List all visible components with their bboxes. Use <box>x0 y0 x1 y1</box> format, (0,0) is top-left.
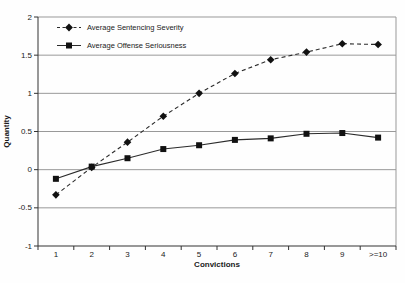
legend-item-sentencing-severity: Average Sentencing Severity <box>57 22 186 33</box>
x-tick-label: 4 <box>161 250 166 259</box>
offense-seriousness-data-point <box>268 135 274 141</box>
sentencing-severity-data-point <box>338 40 346 48</box>
x-axis-title: Convictions <box>194 260 240 269</box>
x-tick-label: >=10 <box>369 250 388 259</box>
offense-seriousness-data-point <box>125 155 131 161</box>
y-tick-label: -1 <box>25 242 33 251</box>
sentencing-severity-line <box>56 44 378 195</box>
y-tick-label: -0.5 <box>18 203 32 212</box>
y-tick-label: 0.5 <box>21 127 33 136</box>
legend-label-offense-seriousness: Average Offense Seriousness <box>87 41 186 50</box>
chart: Quantity Convictions -1-0.500.511.521234… <box>0 0 405 283</box>
sentencing-severity-data-point <box>374 41 382 49</box>
offense-seriousness-data-point <box>53 176 59 182</box>
y-tick-label: 1 <box>28 89 33 98</box>
x-tick-label: 1 <box>54 250 59 259</box>
sentencing-severity-data-point <box>267 56 275 64</box>
x-tick-label: 9 <box>340 250 345 259</box>
sentencing-severity-data-point <box>231 70 239 78</box>
offense-seriousness-data-point <box>196 142 202 148</box>
y-tick-label: 0 <box>28 165 33 174</box>
sentencing-severity-data-point <box>195 90 203 98</box>
sentencing-severity-data-point <box>124 138 132 146</box>
x-tick-label: 2 <box>89 250 94 259</box>
offense-seriousness-data-point <box>232 137 238 143</box>
dashed-diamond-legend-marker-icon <box>57 23 81 32</box>
legend: Average Sentencing Severity Average Offe… <box>57 22 186 51</box>
y-axis-title: Quantity <box>2 115 11 148</box>
x-tick-label: 5 <box>197 250 202 259</box>
offense-seriousness-data-point <box>89 164 95 170</box>
x-tick-label: 3 <box>125 250 130 259</box>
legend-item-offense-seriousness: Average Offense Seriousness <box>57 40 186 51</box>
offense-seriousness-data-point <box>304 131 310 137</box>
offense-seriousness-data-point <box>375 135 381 141</box>
offense-seriousness-data-point <box>160 146 166 152</box>
offense-seriousness-line <box>56 133 378 179</box>
offense-seriousness-data-point <box>339 130 345 136</box>
x-tick-label: 6 <box>233 250 238 259</box>
y-tick-label: 1.5 <box>21 51 33 60</box>
x-tick-label: 8 <box>304 250 309 259</box>
x-tick-label: 7 <box>268 250 273 259</box>
sentencing-severity-data-point <box>159 112 167 120</box>
y-tick-label: 2 <box>28 13 33 22</box>
solid-square-legend-marker-icon <box>57 41 81 50</box>
legend-label-sentencing-severity: Average Sentencing Severity <box>87 23 184 32</box>
